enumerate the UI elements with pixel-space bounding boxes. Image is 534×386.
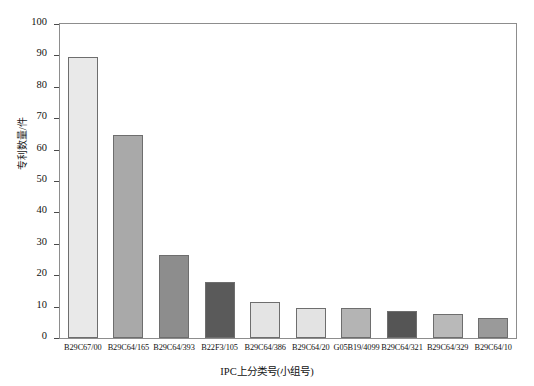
bar[interactable] xyxy=(113,135,143,338)
x-axis-tick-label: B29C64/10 xyxy=(470,343,516,352)
bar-chart: 专利数量/件 0102030405060708090100 B29C67/00B… xyxy=(0,0,534,386)
y-axis-title: 专利数量/件 xyxy=(14,50,29,170)
x-axis-tick-label: B29C64/329 xyxy=(425,343,471,352)
y-axis-tick-mark xyxy=(54,275,59,276)
x-axis-tick-label: B29C64/20 xyxy=(288,343,334,352)
bar[interactable] xyxy=(341,308,371,338)
x-axis-tick-labels: B29C67/00B29C64/165B29C64/393B22F3/105B2… xyxy=(0,343,534,357)
bar-slot xyxy=(341,24,371,338)
y-axis-tick-label: 30 xyxy=(37,236,48,247)
y-axis-tick-mark xyxy=(54,181,59,182)
x-axis-tick-label: G05B19/4099 xyxy=(334,343,380,352)
y-axis-tick-label: 20 xyxy=(37,267,48,278)
y-axis-tick-label: 10 xyxy=(37,299,48,310)
y-axis-tick-mark xyxy=(54,150,59,151)
bars-area xyxy=(60,24,516,338)
y-axis-tick-mark xyxy=(54,24,59,25)
y-axis-tick-mark xyxy=(54,244,59,245)
bar-slot xyxy=(159,24,189,338)
bar-slot xyxy=(296,24,326,338)
x-axis-tick-label: B29C64/386 xyxy=(242,343,288,352)
y-axis-tick-label: 70 xyxy=(37,110,48,121)
y-axis-tick-label: 100 xyxy=(31,16,47,27)
y-axis-tick-mark xyxy=(54,55,59,56)
y-axis-tick-mark xyxy=(54,118,59,119)
bar-slot xyxy=(433,24,463,338)
y-axis-tick-label: 60 xyxy=(37,142,48,153)
y-axis-tick-mark xyxy=(54,307,59,308)
x-axis-tick-label: B29C64/321 xyxy=(379,343,425,352)
y-axis-tick-mark xyxy=(54,338,59,339)
bar-slot xyxy=(478,24,508,338)
bar[interactable] xyxy=(478,318,508,338)
bar[interactable] xyxy=(296,308,326,338)
y-axis-tick-label: 90 xyxy=(37,47,48,58)
y-axis-tick-label: 80 xyxy=(37,79,48,90)
bar-slot xyxy=(387,24,417,338)
x-axis-tick-label: B29C64/393 xyxy=(151,343,197,352)
bar-slot xyxy=(68,24,98,338)
x-axis-tick-label: B29C67/00 xyxy=(60,343,106,352)
y-axis-tick-label: 50 xyxy=(37,173,48,184)
bar[interactable] xyxy=(205,282,235,338)
y-axis-tick-mark xyxy=(54,87,59,88)
x-axis-tick-label: B22F3/105 xyxy=(197,343,243,352)
bar-slot xyxy=(205,24,235,338)
bar-slot xyxy=(113,24,143,338)
bar[interactable] xyxy=(387,311,417,338)
y-axis-tick-label: 0 xyxy=(42,330,47,341)
x-axis-title: IPC上分类号(小组号) xyxy=(0,363,534,378)
y-axis-tick-label: 40 xyxy=(37,204,48,215)
bar[interactable] xyxy=(159,255,189,338)
y-axis-tick-mark xyxy=(54,212,59,213)
bar[interactable] xyxy=(68,57,98,338)
bar[interactable] xyxy=(433,314,463,338)
x-axis-tick-label: B29C64/165 xyxy=(106,343,152,352)
bar-slot xyxy=(250,24,280,338)
bar[interactable] xyxy=(250,302,280,338)
